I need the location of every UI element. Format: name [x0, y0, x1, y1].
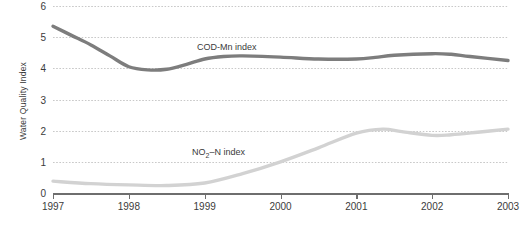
y-tick-0: 0	[24, 188, 46, 199]
y-tick-5: 5	[24, 32, 46, 43]
y-tick-3: 3	[24, 94, 46, 105]
y-tick-4: 4	[24, 63, 46, 74]
y-axis-tick-labels: 0123456	[24, 0, 46, 230]
water-quality-line-chart: Water Quality Index 0123456 199719981999…	[0, 0, 526, 230]
series-label-0: COD-Mn index	[197, 42, 257, 52]
series-label-1: NO2–N index	[192, 147, 245, 159]
y-tick-6: 6	[24, 1, 46, 12]
series-line-1	[53, 129, 508, 186]
series-lines	[53, 0, 508, 230]
y-tick-2: 2	[24, 125, 46, 136]
series-line-0	[53, 26, 508, 70]
x-tick-mark-2003	[508, 193, 509, 199]
y-tick-1: 1	[24, 156, 46, 167]
plot-area: 1997199819992000200120022003 COD-Mn inde…	[53, 0, 508, 230]
